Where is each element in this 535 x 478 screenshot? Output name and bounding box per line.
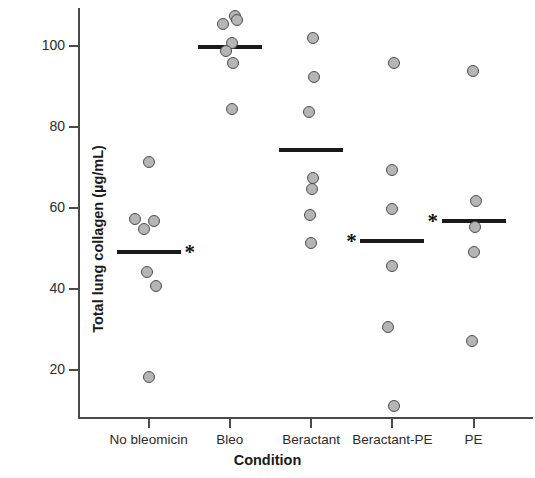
data-point — [303, 106, 315, 118]
y-tick-label: 80 — [49, 118, 65, 134]
data-point — [304, 209, 316, 221]
x-tick-label: PE — [465, 432, 483, 447]
y-tick-label: 20 — [49, 361, 65, 377]
data-point — [388, 400, 400, 412]
significance-asterisk: * — [346, 231, 357, 252]
y-axis-line — [78, 8, 80, 418]
data-point — [468, 246, 480, 258]
data-point — [467, 65, 479, 77]
data-point — [141, 266, 153, 278]
y-tick — [69, 207, 78, 209]
data-point — [307, 32, 319, 44]
mean-line — [279, 148, 343, 152]
x-tick-label: No bleomicin — [110, 432, 188, 447]
data-point — [143, 371, 155, 383]
data-point — [306, 183, 318, 195]
data-point — [217, 18, 229, 30]
x-tick-label: Beractant-PE — [352, 432, 432, 447]
significance-asterisk: * — [184, 241, 195, 262]
data-point — [138, 223, 150, 235]
data-point — [469, 221, 481, 233]
data-point — [231, 14, 243, 26]
x-tick — [391, 419, 393, 428]
data-point — [150, 280, 162, 292]
x-tick — [148, 419, 150, 428]
data-point — [148, 215, 160, 227]
x-tick-label: Bleo — [216, 432, 243, 447]
data-point — [143, 156, 155, 168]
data-point — [388, 57, 400, 69]
data-point — [227, 57, 239, 69]
y-tick — [69, 45, 78, 47]
y-tick — [69, 126, 78, 128]
plot-area: 20406080100 No bleomicinBleoBeractantBer… — [78, 8, 533, 418]
data-point — [226, 103, 238, 115]
data-point — [386, 260, 398, 272]
data-point — [470, 195, 482, 207]
x-tick — [229, 419, 231, 428]
data-point — [308, 71, 320, 83]
y-tick-label: 100 — [42, 37, 65, 53]
data-point — [386, 164, 398, 176]
significance-asterisk: * — [427, 211, 438, 232]
x-tick — [473, 419, 475, 428]
data-point — [382, 321, 394, 333]
data-point — [466, 335, 478, 347]
mean-line — [360, 239, 424, 243]
x-tick — [310, 419, 312, 428]
x-axis-line — [78, 417, 533, 419]
y-tick-label: 40 — [49, 280, 65, 296]
y-tick-label: 60 — [49, 199, 65, 215]
x-axis-title: Condition — [0, 452, 535, 468]
data-point — [220, 45, 232, 57]
data-point — [386, 203, 398, 215]
y-tick — [69, 288, 78, 290]
mean-line — [117, 250, 181, 254]
x-tick-label: Beractant — [282, 432, 340, 447]
y-tick — [69, 369, 78, 371]
data-point — [305, 237, 317, 249]
dot-plot-figure: Total lung collagen (µg/mL) Condition 20… — [0, 0, 535, 478]
